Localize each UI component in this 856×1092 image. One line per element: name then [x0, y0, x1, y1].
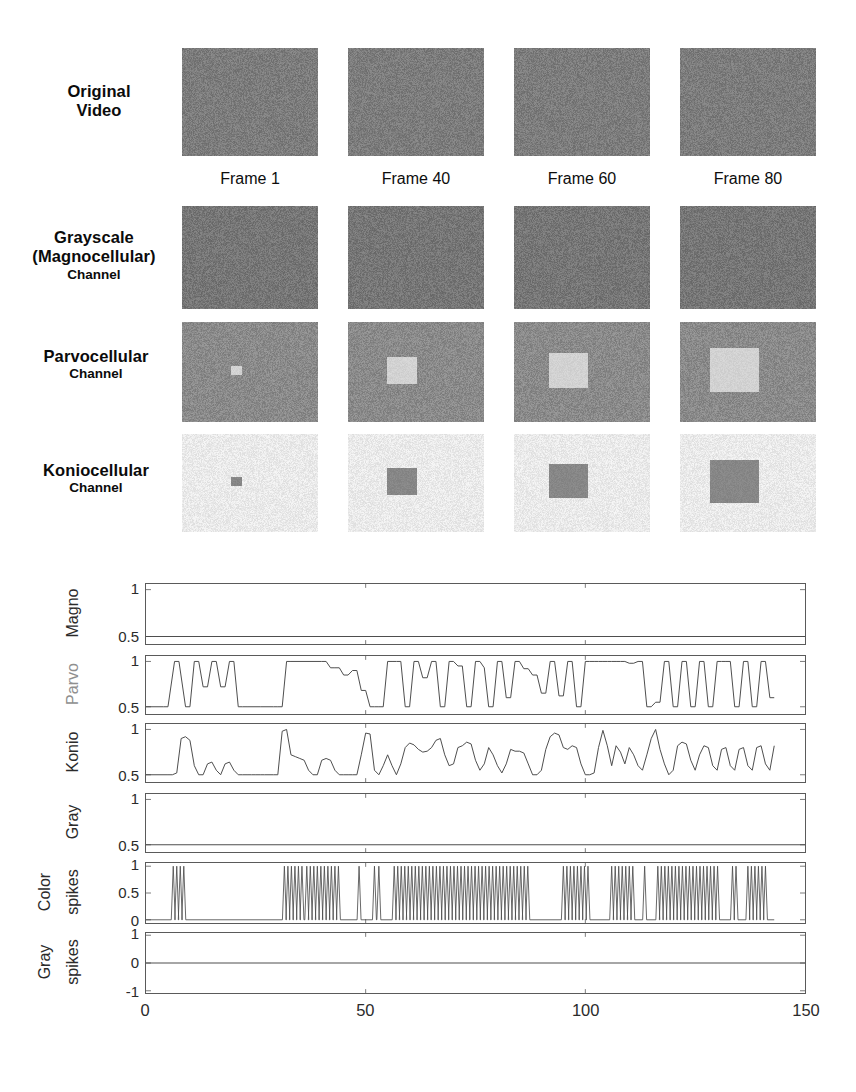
thumbnail-grayscale-magnocellular-frame-1 [182, 206, 318, 309]
signal-trace [146, 729, 774, 774]
plot-panel-color-spikes [145, 862, 806, 924]
x-tick-label: 0 [115, 1001, 175, 1020]
y-tick-label: 1 [101, 925, 139, 942]
x-tick-label: 100 [556, 1001, 616, 1020]
frame-label-4: Frame 80 [680, 170, 816, 188]
noise-texture [182, 206, 318, 309]
signal-trace [146, 661, 774, 706]
thumbnail-parvocellular-frame-3 [514, 322, 650, 422]
stimulus-patch [710, 460, 759, 503]
row-label-koniocellular: Koniocellular Channel [12, 461, 180, 496]
noise-texture [348, 206, 484, 309]
y-tick-label: 0.5 [101, 699, 139, 716]
stimulus-patch [549, 464, 588, 498]
noise-texture [182, 434, 318, 532]
noise-texture [348, 48, 484, 156]
y-tick-label: 0.5 [101, 767, 139, 784]
noise-texture [182, 322, 318, 422]
y-tick-label: 1 [101, 790, 139, 807]
noise-texture [680, 206, 816, 309]
plot-panel-konio [145, 723, 806, 783]
plot-panel-magno [145, 583, 806, 645]
thumbnail-koniocellular-frame-2 [348, 434, 484, 532]
thumbnail-parvocellular-frame-2 [348, 322, 484, 422]
row-label-original-video: Original Video [24, 82, 174, 121]
thumbnail-original-video-frame-2 [348, 48, 484, 156]
spike-train-trace [146, 866, 774, 920]
row-label-parvocellular: Parvocellular Channel [12, 347, 180, 382]
row-label-line1: Koniocellular [12, 461, 180, 480]
thumbnail-original-video-frame-4 [680, 48, 816, 156]
row-label-grayscale-magnocellular: Grayscale (Magnocellular) Channel [6, 228, 182, 283]
y-tick-label: 0 [101, 954, 139, 971]
row-label-line2: (Magnocellular) [6, 247, 182, 266]
plot-panel-gray-spikes [145, 932, 806, 994]
row-label-line3: Channel [12, 366, 180, 382]
row-label-line1: Grayscale [6, 228, 182, 247]
stimulus-patch [231, 366, 242, 375]
thumbnail-original-video-frame-3 [514, 48, 650, 156]
thumbnail-koniocellular-frame-4 [680, 434, 816, 532]
stimulus-patch [231, 477, 242, 486]
frame-label-1: Frame 1 [182, 170, 318, 188]
y-tick-label: 1 [101, 856, 139, 873]
noise-texture [680, 48, 816, 156]
thumbnail-grayscale-magnocellular-frame-2 [348, 206, 484, 309]
thumbnail-original-video-frame-1 [182, 48, 318, 156]
y-tick-label: 1 [101, 652, 139, 669]
frame-label-3: Frame 60 [514, 170, 650, 188]
y-tick-label: 0.5 [101, 837, 139, 854]
plot-panel-gray [145, 793, 806, 853]
noise-texture [514, 48, 650, 156]
thumbnail-koniocellular-frame-3 [514, 434, 650, 532]
stimulus-patch [387, 468, 417, 495]
stimulus-patch [387, 357, 417, 384]
y-tick-label: 0.5 [101, 884, 139, 901]
figure-root: Original Video Grayscale (Magnocellular)… [0, 0, 856, 1092]
y-axis-label: Gray [36, 917, 54, 1007]
y-axis-label: spikes [64, 917, 82, 1007]
thumbnail-grayscale-magnocellular-frame-4 [680, 206, 816, 309]
thumbnail-parvocellular-frame-4 [680, 322, 816, 422]
row-label-line1: Original [24, 82, 174, 101]
plot-panel-parvo [145, 655, 806, 715]
stimulus-patch [549, 353, 588, 388]
row-label-line2: Video [24, 101, 174, 120]
y-tick-label: 1 [101, 720, 139, 737]
row-label-line1: Parvocellular [12, 347, 180, 366]
y-tick-label: 1 [101, 580, 139, 597]
stimulus-patch [710, 348, 759, 392]
noise-texture [514, 206, 650, 309]
row-label-line3: Channel [12, 480, 180, 496]
thumbnail-parvocellular-frame-1 [182, 322, 318, 422]
x-tick-label: 150 [776, 1001, 836, 1020]
row-label-line3: Channel [6, 267, 182, 283]
y-tick-label: -1 [101, 983, 139, 1000]
thumbnail-koniocellular-frame-1 [182, 434, 318, 532]
frame-label-2: Frame 40 [348, 170, 484, 188]
noise-texture [182, 48, 318, 156]
thumbnail-grayscale-magnocellular-frame-3 [514, 206, 650, 309]
x-tick-label: 50 [335, 1001, 395, 1020]
y-tick-label: 0.5 [101, 628, 139, 645]
